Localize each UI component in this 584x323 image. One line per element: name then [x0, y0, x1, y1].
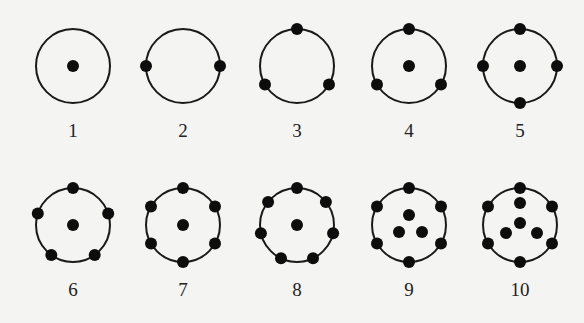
ring-dot	[275, 252, 287, 264]
inner-dot	[531, 227, 543, 239]
ring-dot	[514, 97, 526, 109]
figure-3	[259, 23, 335, 103]
inner-dot	[67, 60, 79, 72]
ring-dot	[435, 201, 447, 213]
ring-dot	[482, 201, 494, 213]
ring-dot	[371, 238, 383, 250]
inner-dot	[500, 227, 512, 239]
figure-6	[32, 182, 114, 262]
inner-dot	[416, 226, 428, 238]
inner-dot	[291, 219, 303, 231]
ring-dot	[403, 182, 415, 194]
ring-dot	[371, 79, 383, 91]
ring-dot	[551, 60, 563, 72]
figure-label: 8	[277, 279, 317, 301]
ring-dot	[403, 256, 415, 268]
inner-dot	[514, 197, 526, 209]
ring-circle	[146, 29, 220, 103]
ring-dot	[45, 249, 57, 261]
ring-dot	[145, 238, 157, 250]
ring-dot	[177, 256, 189, 268]
ring-dot	[259, 79, 271, 91]
figure-label: 7	[163, 279, 203, 301]
inner-dot	[67, 219, 79, 231]
ring-dot	[32, 208, 44, 220]
ring-dot	[140, 60, 152, 72]
ring-dot	[209, 201, 221, 213]
ring-dot	[209, 238, 221, 250]
circle-dot-diagram: 12345678910	[0, 0, 584, 323]
ring-dot	[145, 201, 157, 213]
inner-dot	[403, 209, 415, 221]
ring-dot	[371, 201, 383, 213]
figure-label: 3	[277, 120, 317, 142]
figure-label: 1	[53, 120, 93, 142]
ring-dot	[102, 208, 114, 220]
diagram-canvas	[0, 0, 584, 323]
figure-label: 2	[163, 120, 203, 142]
figure-4	[371, 23, 447, 103]
figure-label: 4	[389, 120, 429, 142]
ring-dot	[546, 201, 558, 213]
ring-dot	[89, 249, 101, 261]
figure-label: 9	[389, 279, 429, 301]
inner-dot	[514, 217, 526, 229]
ring-dot	[327, 227, 339, 239]
figure-8	[255, 182, 339, 264]
inner-dot	[177, 219, 189, 231]
figure-label: 6	[53, 279, 93, 301]
ring-dot	[323, 79, 335, 91]
ring-dot	[320, 196, 332, 208]
ring-dot	[546, 238, 558, 250]
ring-dot	[403, 23, 415, 35]
figure-label: 10	[500, 279, 540, 301]
ring-dot	[514, 256, 526, 268]
ring-circle	[372, 188, 446, 262]
ring-circle	[260, 29, 334, 103]
ring-dot	[514, 182, 526, 194]
ring-dot	[67, 182, 79, 194]
figure-10	[482, 182, 558, 268]
ring-dot	[177, 182, 189, 194]
figure-5	[477, 23, 563, 109]
figure-9	[371, 182, 447, 268]
figure-label: 5	[500, 120, 540, 142]
ring-dot	[435, 238, 447, 250]
figure-7	[145, 182, 221, 268]
ring-dot	[307, 252, 319, 264]
figure-2	[140, 29, 226, 103]
ring-dot	[262, 196, 274, 208]
inner-dot	[393, 226, 405, 238]
inner-dot	[403, 60, 415, 72]
ring-dot	[482, 238, 494, 250]
ring-dot	[214, 60, 226, 72]
ring-dot	[435, 79, 447, 91]
ring-dot	[291, 23, 303, 35]
ring-dot	[477, 60, 489, 72]
ring-dot	[291, 182, 303, 194]
inner-dot	[514, 60, 526, 72]
figure-1	[36, 29, 110, 103]
ring-dot	[514, 23, 526, 35]
ring-dot	[255, 227, 267, 239]
